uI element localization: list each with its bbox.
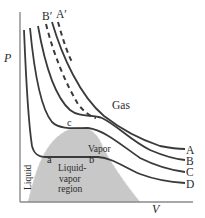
region-vapor-label: Vapor <box>88 144 112 154</box>
v-axis-label: V <box>152 202 161 216</box>
region-liquid-vapor-label-3: region <box>58 184 83 194</box>
region-liquid-vapor-label-1: Liquid- <box>58 163 87 173</box>
label-B-prime: B′ <box>42 10 52 22</box>
label-A-prime: A′ <box>56 8 67 20</box>
region-liquid-label: Liquid <box>23 164 33 190</box>
label-D: D <box>186 178 194 190</box>
region-gas-label: Gas <box>112 99 130 111</box>
point-a-label: a <box>47 154 52 165</box>
label-C: C <box>186 166 194 178</box>
p-axis-label: P <box>3 51 12 65</box>
region-liquid-vapor-label-2: vapor <box>59 174 81 184</box>
point-c-label: c <box>67 117 72 128</box>
pv-diagram: P V B′ A′ A B C D Gas Vapor Liquid Liqui… <box>0 0 205 218</box>
point-b-label: b <box>89 154 94 165</box>
